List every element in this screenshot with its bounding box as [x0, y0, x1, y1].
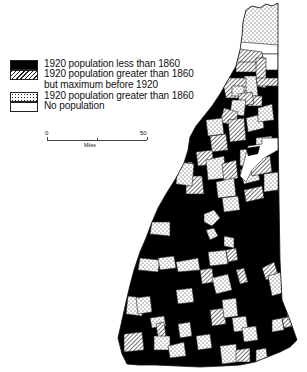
legend-label: 1920 population greater than 1860but max…	[44, 69, 194, 90]
region-um-dotted-12	[222, 196, 240, 212]
region-um-dotted-11	[264, 172, 278, 192]
region-um-dotted-4	[206, 118, 224, 136]
scale-start-label: 0	[45, 130, 48, 136]
region-south-dotted-1	[212, 274, 232, 294]
region-south-dotted-4	[136, 296, 152, 314]
region-south-dotted-7	[154, 336, 170, 350]
region-central-dotted-4	[208, 250, 228, 266]
scale-line	[47, 140, 147, 141]
region-um-hatch-4	[210, 134, 228, 152]
region-south-dotted-3	[176, 288, 194, 304]
scale-tick-end	[147, 137, 148, 140]
swatch-diagonal-hatch-icon	[10, 70, 38, 80]
region-south-hatch-7	[236, 348, 250, 362]
region-south-dotted-10	[242, 326, 258, 342]
region-south-dotted-11	[196, 334, 212, 350]
legend-label: No population	[44, 101, 104, 112]
region-central-dotted-3	[224, 236, 234, 248]
region-south-dotted-6	[178, 322, 192, 338]
legend-item-no-population: No population	[10, 101, 180, 111]
scale-unit-label: Miles	[84, 142, 96, 148]
map-legend: 1920 population less than 1860 1920 popu…	[10, 59, 180, 111]
region-south-hatch-1	[200, 268, 214, 284]
scale-end-label: 50	[140, 130, 147, 136]
scale-bar: 0 50 Miles	[44, 130, 148, 154]
swatch-stipple-dots-icon	[10, 92, 38, 102]
swatch-solid-black-icon	[10, 60, 38, 70]
region-central-dotted-5	[158, 256, 176, 270]
region-north-hatch-2	[236, 62, 258, 72]
region-west-dotted-2	[150, 222, 170, 236]
region-north-hatch-5	[256, 78, 278, 86]
region-south-hatch-5	[124, 332, 144, 352]
region-um-hatch-3	[228, 118, 246, 142]
region-central-hatch-1	[226, 248, 238, 262]
region-south-dotted-13	[256, 348, 268, 364]
scale-tick-mid	[97, 138, 98, 140]
region-south-dotted-12	[220, 344, 238, 364]
swatch-empty-icon	[10, 102, 38, 112]
region-west-dotted-1	[176, 162, 194, 186]
region-south-dotted-15	[286, 304, 298, 320]
state-body	[110, 0, 307, 372]
legend-item-peak-before-1920: 1920 population greater than 1860but max…	[10, 69, 180, 91]
region-south-dotted-8	[222, 298, 238, 318]
new-hampshire-map	[0, 0, 307, 372]
region-south-hatch-4	[156, 322, 166, 338]
region-west-dotted-3	[138, 258, 160, 272]
